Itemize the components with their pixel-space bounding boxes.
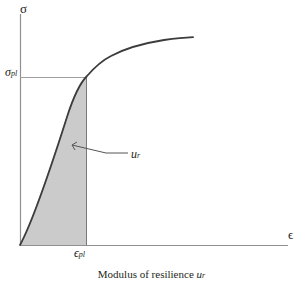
sigma-pl-tick-label: σpl [5,66,17,78]
stress-strain-figure: σ ϵ σpl ϵpl ur Modulus of resilience ur [0,0,303,281]
ur-subscript: r [137,151,140,160]
epsilon-pl-subscript: pl [79,250,85,259]
x-axis-label-epsilon: ϵ [288,228,293,241]
sigma-pl-subscript: pl [11,69,17,78]
epsilon-pl-tick-label: ϵpl [74,247,85,259]
modulus-of-resilience-label: ur [131,148,140,160]
figure-caption: Modulus of resilience ur [0,268,303,280]
y-axis-label-sigma: σ [20,2,27,15]
stress-strain-plot [0,0,303,281]
caption-subscript: r [202,271,205,280]
caption-text: Modulus of resilience [98,268,197,280]
